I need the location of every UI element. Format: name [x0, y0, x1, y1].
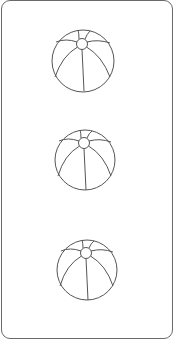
beach-ball-3: [54, 237, 120, 303]
beach-ball-icon: [52, 127, 118, 193]
beach-ball-icon: [50, 28, 116, 94]
beach-ball-1: [50, 28, 116, 94]
beach-ball-icon: [54, 237, 120, 303]
beach-ball-2: [52, 127, 118, 193]
